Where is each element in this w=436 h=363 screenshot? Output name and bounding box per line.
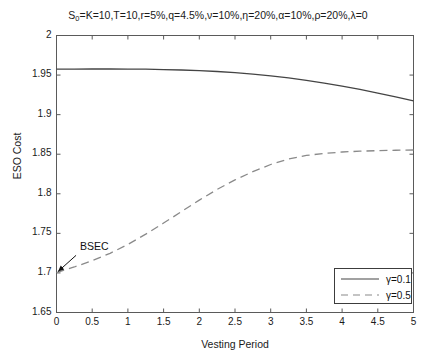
legend-item-gamma-0-1: γ=0.1 [335, 271, 411, 287]
x-tick-label: 3 [251, 316, 291, 327]
annotation-arrow-bsec [58, 255, 76, 271]
y-tick-label: 1.75 [0, 226, 52, 237]
x-tick-label: 1 [108, 316, 148, 327]
series-line-1 [57, 69, 414, 101]
y-tick-label: 1.65 [0, 306, 52, 317]
chart-legend: γ=0.1 γ=0.5 [334, 268, 412, 304]
legend-label-gamma-0-5: γ=0.5 [386, 290, 411, 301]
series-lines [57, 69, 414, 273]
x-tick-label: 0 [37, 316, 77, 327]
legend-label-gamma-0-1: γ=0.1 [386, 274, 411, 285]
bsec-annotation-label: BSEC [80, 240, 109, 252]
x-tick-label: 0.5 [72, 316, 112, 327]
legend-item-gamma-0-5: γ=0.5 [335, 287, 411, 303]
x-tick-label: 4.5 [358, 316, 398, 327]
y-tick-label: 1.8 [0, 187, 52, 198]
y-tick-label: 1.95 [0, 68, 52, 79]
legend-line-sample-dashed [340, 289, 380, 301]
y-tick-label: 1.7 [0, 266, 52, 277]
y-tick-label: 2 [0, 29, 52, 40]
eso-cost-chart-figure: S0=K=10,T=10,r=5%,q=4.5%,ν=10%,η=20%,α=1… [0, 0, 436, 363]
x-tick-label: 3.5 [286, 316, 326, 327]
plot-area [0, 0, 436, 363]
x-tick-label: 2 [179, 316, 219, 327]
legend-line-sample-solid [340, 273, 380, 285]
x-tick-label: 4 [322, 316, 362, 327]
x-tick-label: 5 [394, 316, 434, 327]
x-tick-label: 1.5 [144, 316, 184, 327]
x-tick-label: 2.5 [215, 316, 255, 327]
y-tick-label: 1.85 [0, 147, 52, 158]
y-tick-label: 1.9 [0, 108, 52, 119]
series-line-2 [57, 150, 414, 273]
